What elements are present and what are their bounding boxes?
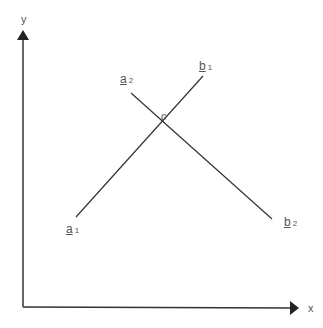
- y-axis-arrow-icon: [17, 30, 29, 40]
- label-a2: a2: [120, 73, 133, 85]
- label-a1: a1: [66, 223, 79, 235]
- label-intersection-c: c: [161, 111, 167, 122]
- x-axis-arrow-icon: [290, 301, 299, 315]
- diagram-canvas: [0, 0, 323, 328]
- line-a2-b2: [131, 93, 272, 219]
- line-a1-b1: [76, 76, 203, 217]
- label-b1: b1: [199, 60, 212, 72]
- label-b2: b2: [284, 216, 297, 228]
- y-axis-label: y: [21, 14, 27, 25]
- x-axis-label: x: [308, 303, 314, 314]
- x-axis: [23, 307, 292, 308]
